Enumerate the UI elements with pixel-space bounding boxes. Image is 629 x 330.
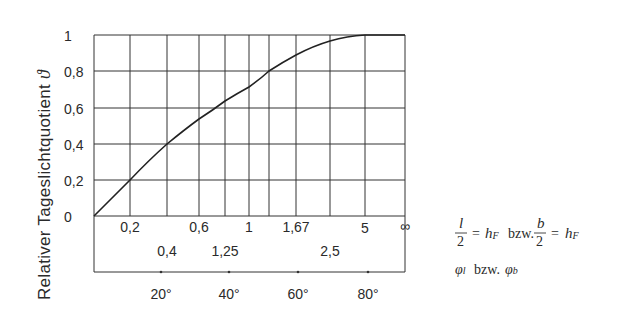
svg-text:φl: φl xyxy=(455,262,466,277)
svg-text:l: l xyxy=(459,215,463,231)
svg-text:1: 1 xyxy=(245,219,253,235)
svg-text:hF: hF xyxy=(565,225,580,241)
svg-text:bzw.: bzw. xyxy=(508,226,534,241)
svg-text:0,4: 0,4 xyxy=(64,137,84,153)
y-tick-labels: 1 0,8 0,6 0,4 0,2 0 xyxy=(64,28,84,225)
svg-text:80°: 80° xyxy=(357,286,378,302)
svg-text:2,5: 2,5 xyxy=(320,243,340,259)
svg-text:1,25: 1,25 xyxy=(211,243,238,259)
svg-text:0,8: 0,8 xyxy=(64,64,84,80)
svg-text:=: = xyxy=(472,226,480,241)
svg-text:0,2: 0,2 xyxy=(120,219,140,235)
svg-text:1,67: 1,67 xyxy=(282,219,309,235)
ratio-tick-labels-row2: 0,4 1,25 2,5 xyxy=(157,243,340,259)
svg-text:2: 2 xyxy=(536,234,543,249)
svg-text:40°: 40° xyxy=(218,286,239,302)
svg-text:0,6: 0,6 xyxy=(64,101,84,117)
angle-axis-caption: φl bzw. φb xyxy=(455,262,518,277)
y-axis-label: Relativer Tageslichtquotient ϑ xyxy=(34,69,54,300)
svg-text:Relativer Tageslichtquotient ϑ: Relativer Tageslichtquotient ϑ xyxy=(34,69,54,300)
angle-tick-labels: 20° 40° 60° 80° xyxy=(150,286,378,302)
chart: Relativer Tageslichtquotient ϑ 1 0,8 0,6… xyxy=(0,0,629,330)
ratio-axis-caption: l 2 = hF bzw. b 2 = hF xyxy=(455,215,580,249)
ratio-tick-labels-row1: 0,2 0,6 1 1,67 5 ∞ xyxy=(120,218,410,236)
plot-grid xyxy=(94,35,405,272)
svg-text:5: 5 xyxy=(361,220,369,236)
svg-text:0,4: 0,4 xyxy=(157,243,177,259)
svg-text:b: b xyxy=(537,215,545,231)
svg-text:0,6: 0,6 xyxy=(189,219,209,235)
svg-text:hF: hF xyxy=(485,225,500,241)
svg-text:bzw.: bzw. xyxy=(474,262,500,277)
svg-text:1: 1 xyxy=(64,28,72,44)
svg-text:20°: 20° xyxy=(150,286,171,302)
svg-text:φb: φb xyxy=(505,262,518,277)
svg-text:=: = xyxy=(551,226,559,241)
svg-text:60°: 60° xyxy=(287,286,308,302)
svg-text:∞: ∞ xyxy=(400,218,410,234)
svg-text:0,2: 0,2 xyxy=(64,173,84,189)
svg-text:0: 0 xyxy=(64,209,72,225)
svg-text:2: 2 xyxy=(457,234,464,249)
